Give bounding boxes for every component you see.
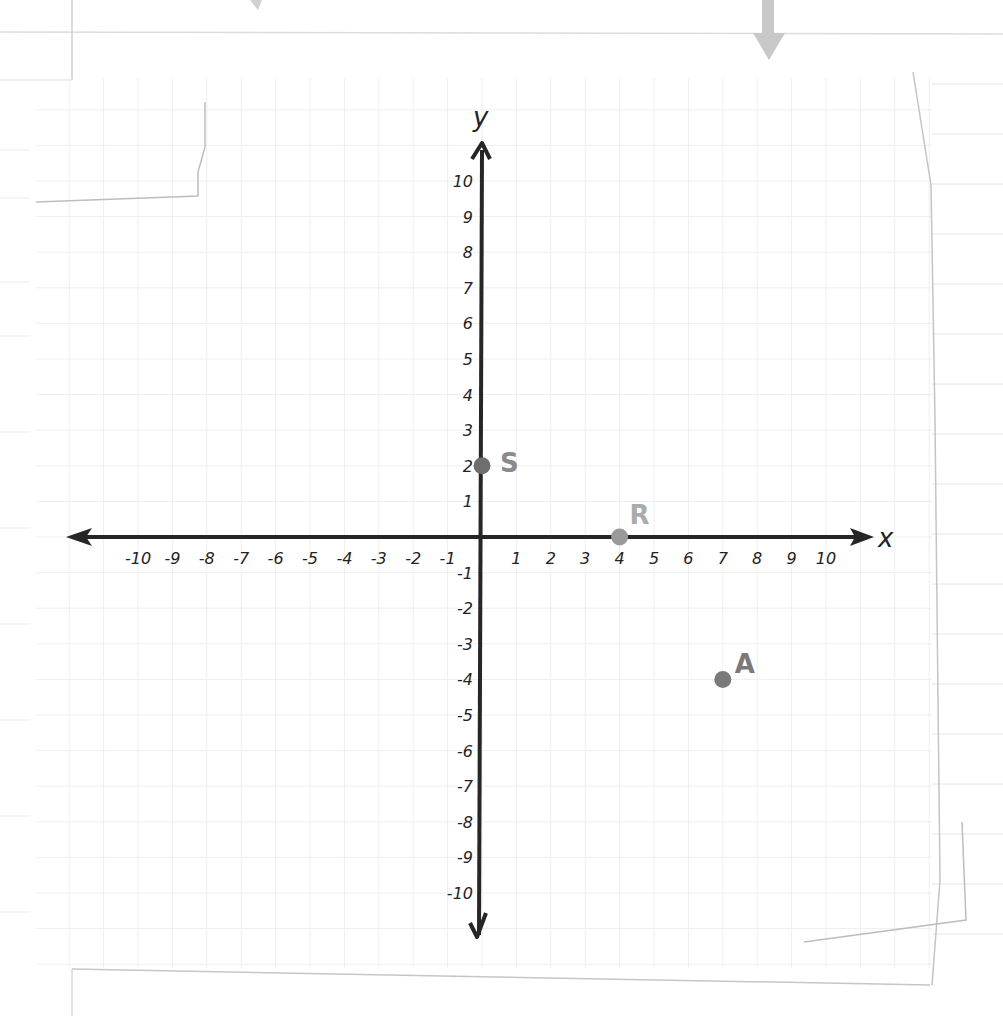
- x-tick-label: 6: [683, 549, 693, 568]
- y-tick-label: -8: [457, 813, 473, 832]
- x-tick-label: -10: [125, 549, 151, 568]
- y-tick-label: -2: [457, 599, 473, 618]
- x-tick-label: 10: [816, 549, 836, 568]
- point-r: [611, 529, 628, 546]
- y-tick-label: -3: [457, 635, 473, 654]
- y-tick-label: -1: [457, 564, 473, 583]
- x-tick-label: 7: [718, 549, 729, 568]
- y-tick-label: 2: [463, 457, 473, 476]
- point-label-s: S: [500, 448, 519, 478]
- paper-background: [0, 0, 1003, 1016]
- x-tick-label: -8: [199, 549, 215, 568]
- y-tick-label: 10: [453, 172, 473, 191]
- x-tick-label: 2: [546, 549, 556, 568]
- background-grid-right: [932, 84, 1003, 934]
- tape-piece-top-left: [36, 102, 205, 202]
- x-axis-label: x: [877, 523, 894, 553]
- x-tick-label: 8: [752, 549, 762, 568]
- y-tick-label: 4: [463, 386, 473, 405]
- y-tick-label: 8: [463, 243, 473, 262]
- x-tick-label: 9: [787, 549, 797, 568]
- y-tick-label: 6: [463, 314, 473, 333]
- y-tick-label: 1: [463, 492, 473, 511]
- y-tick-label: 9: [463, 208, 473, 227]
- y-axis-label: y: [472, 102, 489, 132]
- faint-arrow-hint-icon: [250, 0, 262, 10]
- y-tick-label: -7: [457, 777, 474, 796]
- y-tick-label: -9: [457, 848, 473, 867]
- sheet-edge-right: [913, 72, 940, 985]
- point-label-a: A: [735, 649, 755, 679]
- y-tick-label: -4: [457, 670, 473, 689]
- y-tick-label: 7: [463, 279, 474, 298]
- x-tick-label: -6: [268, 549, 284, 568]
- x-tick-label: 5: [649, 549, 659, 568]
- point-label-r: R: [630, 500, 650, 530]
- background-grid-left: [0, 150, 30, 912]
- x-tick-label: -5: [302, 549, 318, 568]
- x-tick-label: -1: [440, 549, 456, 568]
- paper-edge-top: [0, 32, 1003, 34]
- x-tick-label: -9: [164, 549, 180, 568]
- x-tick-label: 1: [511, 549, 521, 568]
- axes: x y: [66, 102, 894, 937]
- graph-paper-grid: [36, 78, 932, 968]
- x-tick-label: 3: [580, 549, 590, 568]
- y-tick-label: 5: [463, 350, 473, 369]
- x-tick-label: -2: [405, 549, 421, 568]
- point-s: [474, 457, 491, 474]
- x-tick-label: -3: [371, 549, 387, 568]
- x-tick-label: -7: [233, 549, 250, 568]
- y-tick-label: 3: [463, 421, 473, 440]
- y-tick-label: -6: [457, 742, 473, 761]
- point-a: [714, 671, 731, 688]
- tape-piece-bottom-right: [804, 822, 966, 942]
- sheet-edge-bottom: [72, 969, 930, 985]
- down-arrow-hint-shaft: [762, 0, 774, 34]
- y-tick-label: -5: [457, 706, 473, 725]
- x-tick-label: 4: [615, 549, 625, 568]
- y-tick-label: -10: [447, 884, 473, 903]
- x-tick-label: -4: [336, 549, 352, 568]
- down-arrow-hint-icon: [753, 33, 785, 60]
- coordinate-plane-chart: x y -10-9-8-7-6-5-4-3-2-112345678910 109…: [0, 0, 1003, 1016]
